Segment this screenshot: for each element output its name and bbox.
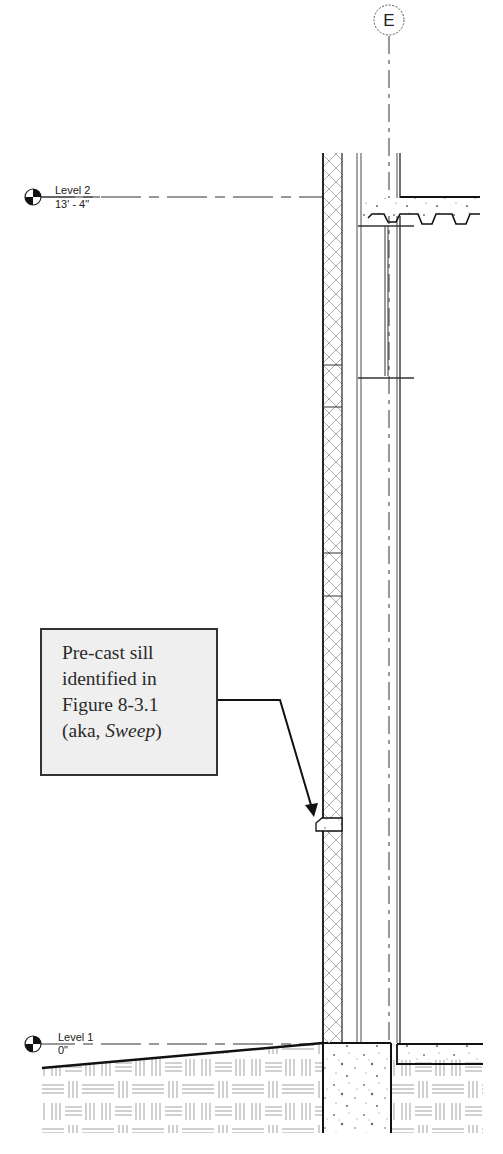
callout-line-3: Figure 8-3.1: [62, 692, 216, 718]
arrow-head-icon: [305, 803, 318, 817]
callout-line-1: Pre-cast sill: [62, 640, 216, 666]
callout-line-2: identified in: [62, 666, 216, 692]
gridline-label: E: [383, 11, 394, 30]
level-2-marker: Level 2 0" 13' - 4": [25, 184, 323, 210]
level-1-elevation: 0": [58, 1044, 68, 1056]
callout-line-4-prefix: (aka,: [62, 720, 105, 741]
level-2-name: Level 2: [55, 184, 90, 196]
precast-sill: [316, 818, 342, 831]
steel-beam: [358, 226, 414, 378]
foundation-wall: [323, 1043, 391, 1133]
level-2-elevation-text: 13' - 4": [55, 198, 89, 210]
stud-wall: [357, 153, 400, 1043]
callout-box: Pre-cast sill identified in Figure 8-3.1…: [40, 628, 218, 776]
callout-leader: [218, 700, 318, 817]
wall-section-drawing: E Level 2 0" 13' - 4" Level 1 0": [0, 0, 503, 1154]
floor-slab-level-2: [362, 197, 480, 224]
callout-sweep-term: Sweep: [105, 720, 155, 741]
brick-veneer: [323, 153, 342, 1043]
callout-line-4-suffix: ): [155, 720, 162, 741]
callout-line-4: (aka, Sweep): [62, 718, 216, 744]
level-1-name: Level 1: [58, 1031, 93, 1043]
